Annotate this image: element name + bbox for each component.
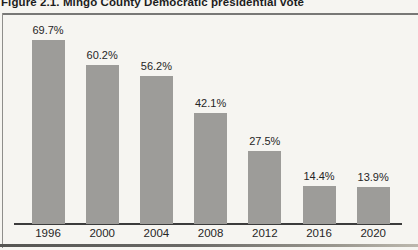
bar-value-label: 56.2% (126, 60, 186, 72)
bar-value-label: 27.5% (235, 135, 295, 147)
bar (357, 187, 390, 224)
bar (303, 186, 336, 224)
x-axis-tick-label: 2004 (126, 227, 186, 239)
x-axis-tick-label: 2016 (289, 227, 349, 239)
bar (86, 65, 119, 224)
x-axis-tick-label: 2000 (72, 227, 132, 239)
bar-value-label: 14.4% (289, 170, 349, 182)
bar-value-label: 42.1% (181, 97, 241, 109)
bar-chart: 69.7%60.2%56.2%42.1%27.5%14.4%13.9% 1996… (0, 0, 418, 250)
bar (194, 113, 227, 224)
bar (140, 76, 173, 224)
bar-value-label: 60.2% (72, 49, 132, 61)
bar-value-label: 13.9% (343, 171, 403, 183)
x-axis-tick-label: 1996 (18, 227, 78, 239)
x-axis-tick-label: 2020 (343, 227, 403, 239)
page-bottom-rule (0, 244, 418, 247)
bar-value-label: 69.7% (18, 24, 78, 36)
scanned-figure-page: Figure 2.1. Mingo County Democratic pres… (0, 0, 418, 250)
x-axis-tick-label: 2008 (181, 227, 241, 239)
bar (248, 151, 281, 224)
x-axis-tick-label: 2012 (235, 227, 295, 239)
bar (32, 40, 65, 224)
